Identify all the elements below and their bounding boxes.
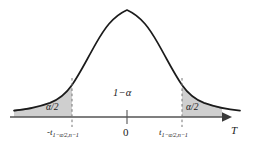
axis-variable-label: T <box>231 125 237 136</box>
left-critical-subscript: 1−α/2,n−1 <box>53 131 79 138</box>
t-distribution-figure: α/2 α/2 1−α 0 -t1−α/2,n−1 t1−α/2,n−1 T <box>0 0 255 151</box>
confidence-level-label: 1−α <box>113 88 131 99</box>
axis-arrowhead <box>222 112 232 122</box>
left-tail-area-label: α/2 <box>46 103 59 113</box>
right-critical-value-label: t1−α/2,n−1 <box>159 128 188 138</box>
left-critical-value-label: -t1−α/2,n−1 <box>47 128 79 138</box>
left-rejection-region-fill <box>14 85 72 117</box>
right-critical-subscript: 1−α/2,n−1 <box>162 131 188 138</box>
right-tail-area-label: α/2 <box>186 103 199 113</box>
center-tick-label: 0 <box>123 127 129 138</box>
